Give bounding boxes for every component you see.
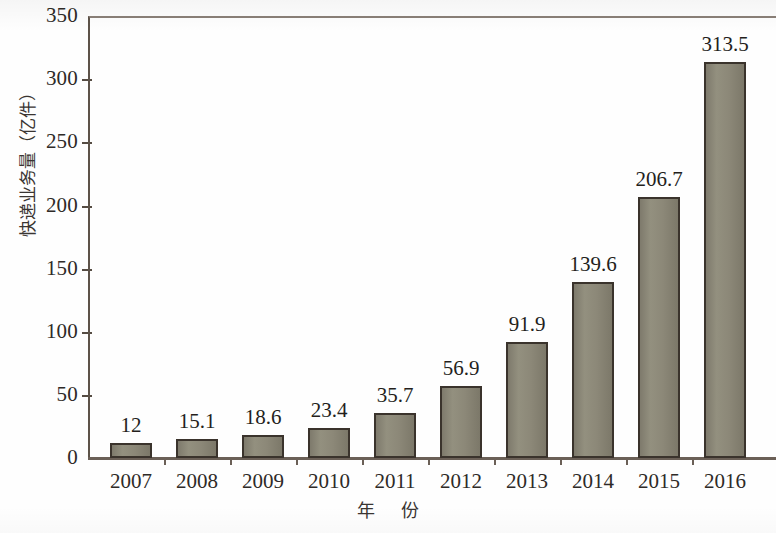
bar-2014 <box>572 282 614 458</box>
y-tick-label-0: 0 <box>34 447 78 468</box>
bar-2012 <box>440 386 482 458</box>
x-tick-mark-8 <box>692 459 694 465</box>
bar-value-label-2014: 139.6 <box>548 254 638 275</box>
x-tick-label-2016: 2016 <box>680 470 770 492</box>
bar-2010 <box>308 428 350 458</box>
bar-2009 <box>242 435 284 458</box>
bar-2015 <box>638 197 680 458</box>
bar-2007 <box>110 443 152 458</box>
y-tick-label-200: 200 <box>34 195 78 216</box>
x-tick-mark-6 <box>560 459 562 465</box>
bar-value-label-2011: 35.7 <box>350 385 440 406</box>
x-tick-mark-0 <box>164 459 166 465</box>
y-tick-label-150: 150 <box>34 258 78 279</box>
bar-value-label-2012: 56.9 <box>416 358 506 379</box>
x-tick-mark-7 <box>626 459 628 465</box>
x-axis-title: 年 份 <box>0 500 776 522</box>
bar-2016 <box>704 62 746 458</box>
y-tick-label-250: 250 <box>34 131 78 152</box>
bar-value-label-2015: 206.7 <box>614 169 704 190</box>
bar-value-label-2013: 91.9 <box>482 314 572 335</box>
x-tick-mark-1 <box>230 459 232 465</box>
x-tick-mark-5 <box>494 459 496 465</box>
bar-chart-figure: 快递业务量（亿件） 350 300 250 200 150 100 50 0 <box>0 0 776 533</box>
bar-2011 <box>374 413 416 458</box>
x-tick-mark-2 <box>296 459 298 465</box>
bar-value-label-2016: 313.5 <box>680 34 770 55</box>
y-tick-label-50: 50 <box>34 384 78 405</box>
y-tick-label-300: 300 <box>34 68 78 89</box>
y-tick-label-100: 100 <box>34 321 78 342</box>
y-tick-label-350: 350 <box>34 5 78 26</box>
bar-2008 <box>176 439 218 458</box>
x-tick-mark-3 <box>362 459 364 465</box>
bar-2013 <box>506 342 548 458</box>
x-tick-mark-4 <box>428 459 430 465</box>
